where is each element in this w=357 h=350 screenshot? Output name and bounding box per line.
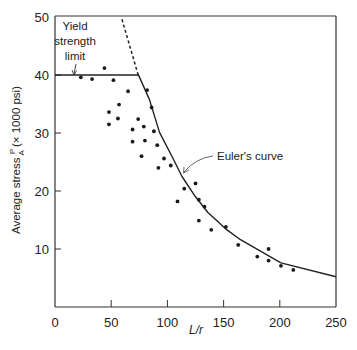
data-point <box>224 225 228 229</box>
data-point <box>136 117 140 121</box>
data-point <box>176 200 180 204</box>
x-tick-label: 0 <box>51 315 58 330</box>
x-tick-label: 150 <box>213 315 235 330</box>
data-point <box>157 166 161 170</box>
data-point <box>203 205 207 209</box>
data-point <box>117 103 121 107</box>
data-point <box>194 182 198 186</box>
x-axis-label: L/r <box>189 323 204 337</box>
data-point <box>155 143 159 147</box>
yield-label-line-3: limit <box>65 50 86 62</box>
y-label-post: (× 1000 psi) <box>10 86 22 150</box>
y-tick-label: 10 <box>35 242 49 257</box>
y-tick-label: 20 <box>35 184 49 199</box>
euler-buckling-chart: 050100150200250 1020304050 Yield strengt… <box>0 0 357 350</box>
data-point <box>116 117 120 121</box>
euler-annotation: Euler's curve <box>184 150 284 173</box>
data-point <box>162 157 166 161</box>
data-point <box>126 89 130 93</box>
y-tick-label: 50 <box>35 10 49 25</box>
y-ticks: 1020304050 <box>35 10 61 257</box>
data-point <box>90 77 94 81</box>
x-tick-label: 50 <box>104 315 118 330</box>
y-tick-label: 30 <box>35 126 49 141</box>
euler-s-curve-extension-line <box>121 17 138 75</box>
data-point <box>150 106 154 110</box>
data-point <box>143 139 147 143</box>
data-point <box>169 164 173 168</box>
data-point <box>197 219 201 223</box>
yield-annotation: Yield strength limit <box>54 20 96 75</box>
data-point <box>112 78 116 82</box>
data-point <box>145 88 149 92</box>
x-tick-label: 200 <box>269 315 291 330</box>
y-axis-label: Average stress PA (× 1000 psi) <box>8 86 26 234</box>
x-tick-label: 250 <box>325 315 347 330</box>
data-point <box>142 125 146 129</box>
data-point <box>236 243 240 247</box>
data-point <box>107 122 111 126</box>
y-tick-label: 40 <box>35 68 49 83</box>
data-point <box>267 259 271 263</box>
x-tick-label: 100 <box>157 315 179 330</box>
data-point <box>279 264 283 268</box>
plot-frame <box>55 16 336 307</box>
svg-text:Average stress PA (× 1000 psi): Average stress PA (× 1000 psi) <box>8 86 26 234</box>
euler-curve-label: Euler's curve <box>217 150 283 162</box>
euler-leader-line <box>184 156 213 172</box>
yield-label-line-1: Yield <box>62 20 87 32</box>
data-point <box>267 247 271 251</box>
data-point <box>255 255 259 259</box>
data-point <box>103 66 107 70</box>
yield-label-line-2: strength <box>54 35 96 47</box>
data-point <box>79 75 83 79</box>
data-point <box>197 198 201 202</box>
y-label-pre: Average stress <box>10 154 22 234</box>
data-point <box>107 110 111 114</box>
data-point <box>152 129 156 133</box>
series-lines <box>55 17 336 277</box>
data-point <box>131 140 135 144</box>
data-point <box>209 228 213 232</box>
data-point <box>182 187 186 191</box>
data-point <box>291 268 295 272</box>
data-point <box>131 128 135 132</box>
data-point <box>140 154 144 158</box>
